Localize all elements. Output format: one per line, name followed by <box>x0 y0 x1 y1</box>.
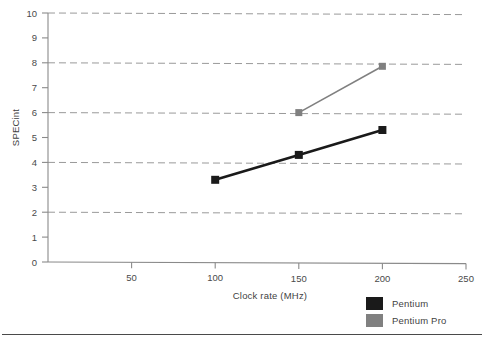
gridline-y10 <box>48 13 466 15</box>
y-tick-label: 5 <box>32 132 37 143</box>
y-tick-label: 0 <box>32 257 37 268</box>
legend-swatch-pentium <box>366 297 383 310</box>
gridline-y6 <box>48 113 466 115</box>
legend-swatch-pentium-pro <box>366 314 383 327</box>
y-tick-label: 1 <box>32 232 37 243</box>
gridlines <box>48 13 466 214</box>
x-tick-label: 150 <box>291 273 307 284</box>
legend-item-pentium: Pentium <box>366 295 446 312</box>
data-point-marker <box>295 151 303 159</box>
x-tick-label: 100 <box>207 272 223 283</box>
legend-item-pentium-pro: Pentium Pro <box>366 312 446 329</box>
y-tick-label: 3 <box>32 182 37 193</box>
y-tick-label: 6 <box>32 107 37 118</box>
x-axis-title: Clock rate (MHz) <box>180 290 360 301</box>
gridline-y4 <box>48 162 466 164</box>
y-axis-title: SPECint <box>10 93 21 163</box>
x-axis-line <box>48 262 466 264</box>
data-point-marker <box>211 176 219 184</box>
y-tick-label: 8 <box>32 57 37 68</box>
x-axis-tick-labels: 50 100 150 200 250 <box>126 272 474 284</box>
y-tick-label: 7 <box>32 82 37 93</box>
data-point-marker <box>295 109 302 116</box>
y-tick-label: 10 <box>26 8 37 19</box>
page-divider-rule <box>2 334 482 335</box>
gridline-y8 <box>48 63 466 65</box>
y-tick-label: 4 <box>32 157 37 168</box>
series-pentium-pro <box>295 63 386 116</box>
series-pentium <box>211 126 386 184</box>
legend-label-pentium: Pentium <box>392 298 428 309</box>
y-axis-tick-labels: 10 9 8 7 6 5 4 3 2 1 0 <box>26 8 37 268</box>
chart-figure: 10 9 8 7 6 5 4 3 2 1 0 50 100 150 200 25… <box>0 0 484 345</box>
x-tick-label: 200 <box>374 273 390 284</box>
x-tick-label: 250 <box>458 273 474 284</box>
chart-legend: Pentium Pentium Pro <box>366 295 446 329</box>
y-axis-ticks <box>42 13 48 262</box>
legend-label-pentium-pro: Pentium Pro <box>392 315 446 326</box>
data-point-marker <box>378 126 386 134</box>
data-point-marker <box>379 63 386 70</box>
series-pentium-pro-line <box>299 66 383 112</box>
y-tick-label: 9 <box>32 32 37 43</box>
x-tick-label: 50 <box>126 272 137 283</box>
y-tick-label: 2 <box>32 207 37 218</box>
gridline-y2 <box>48 212 466 214</box>
